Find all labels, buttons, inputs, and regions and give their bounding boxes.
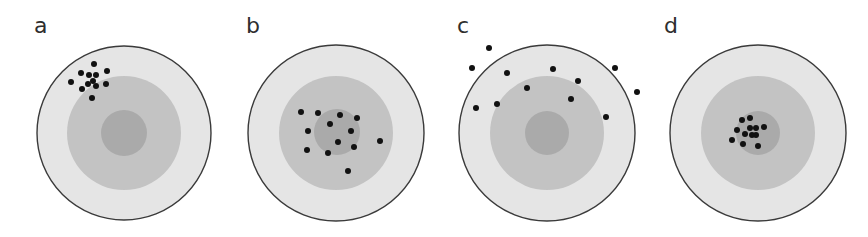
- target-bullseye: [101, 110, 147, 156]
- shot-dot: [753, 125, 759, 131]
- shot-dot: [753, 132, 759, 138]
- shot-dot: [104, 68, 110, 74]
- shot-dot: [298, 109, 304, 115]
- shot-dot: [337, 112, 343, 118]
- shot-dot: [473, 105, 479, 111]
- shot-dot: [761, 124, 767, 130]
- shot-dot: [78, 70, 84, 76]
- target-label-c: c: [457, 13, 469, 38]
- shot-dot: [729, 137, 735, 143]
- shot-dot: [351, 144, 357, 150]
- shot-dot: [634, 89, 640, 95]
- shot-dot: [575, 78, 581, 84]
- shot-dot: [89, 95, 95, 101]
- shot-dot: [103, 81, 109, 87]
- target-bullseye: [525, 111, 569, 155]
- shot-dot: [740, 141, 746, 147]
- shot-dot: [747, 125, 753, 131]
- shot-dot: [354, 115, 360, 121]
- shot-dot: [603, 114, 609, 120]
- shot-dot: [494, 101, 500, 107]
- target-b-group: b: [246, 13, 424, 221]
- shot-dot: [345, 168, 351, 174]
- shot-dot: [486, 45, 492, 51]
- shot-dot: [550, 66, 556, 72]
- shot-dot: [91, 61, 97, 67]
- shot-dot: [325, 150, 331, 156]
- shot-dot: [469, 65, 475, 71]
- shot-dot: [612, 65, 618, 71]
- shot-dot: [93, 72, 99, 78]
- target-d-group: d: [664, 13, 846, 221]
- shot-dot: [348, 128, 354, 134]
- shot-dot: [304, 147, 310, 153]
- target-label-a: a: [34, 13, 47, 38]
- shot-dot: [327, 121, 333, 127]
- shot-dot: [734, 127, 740, 133]
- shot-dot: [568, 96, 574, 102]
- target-a-group: a: [34, 13, 211, 220]
- shot-dot: [86, 72, 92, 78]
- target-c-group: c: [457, 13, 640, 221]
- shot-dot: [315, 110, 321, 116]
- shot-dot: [90, 78, 96, 84]
- shot-dot: [335, 139, 341, 145]
- shot-dot: [755, 143, 761, 149]
- shot-dot: [742, 131, 748, 137]
- shot-dot: [68, 79, 74, 85]
- shot-dot: [85, 81, 91, 87]
- target-label-d: d: [664, 13, 678, 38]
- shot-dot: [93, 83, 99, 89]
- shot-dot: [504, 70, 510, 76]
- shot-dot: [79, 86, 85, 92]
- shot-dot: [739, 117, 745, 123]
- shot-dot: [524, 85, 530, 91]
- target-label-b: b: [246, 13, 260, 38]
- shot-dot: [377, 138, 383, 144]
- accuracy-precision-diagram: a b c d: [0, 0, 868, 237]
- shot-dot: [305, 128, 311, 134]
- shot-dot: [747, 115, 753, 121]
